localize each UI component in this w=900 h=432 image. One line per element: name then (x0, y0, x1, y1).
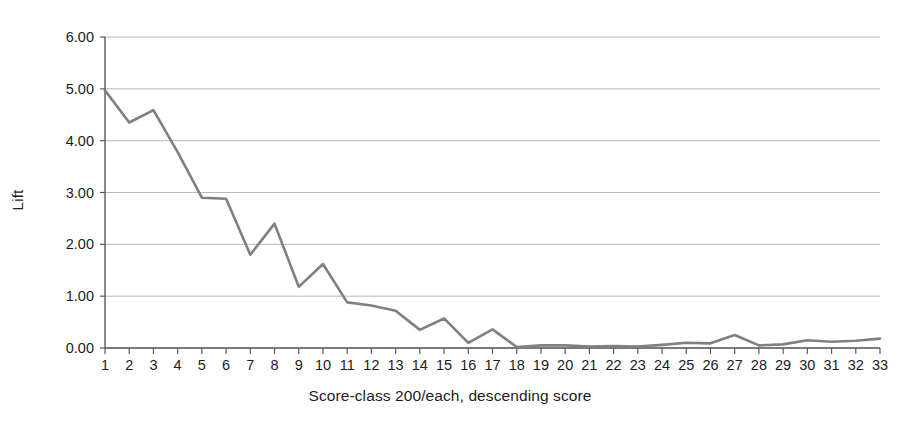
chart-plot-area: 0.001.002.003.004.005.006.00 12345678910… (0, 0, 900, 432)
svg-text:3: 3 (149, 357, 157, 373)
svg-text:2.00: 2.00 (66, 236, 94, 252)
lift-chart: 0.001.002.003.004.005.006.00 12345678910… (0, 0, 900, 432)
svg-text:7: 7 (246, 357, 254, 373)
svg-text:13: 13 (388, 357, 404, 373)
x-tick-marks (105, 348, 880, 354)
svg-text:2: 2 (125, 357, 133, 373)
y-tick-marks (100, 37, 105, 348)
svg-text:28: 28 (751, 357, 767, 373)
svg-text:33: 33 (872, 357, 888, 373)
svg-text:23: 23 (630, 357, 646, 373)
svg-text:32: 32 (848, 357, 864, 373)
svg-text:16: 16 (460, 357, 476, 373)
svg-text:27: 27 (727, 357, 743, 373)
svg-text:29: 29 (775, 357, 791, 373)
svg-text:12: 12 (363, 357, 379, 373)
x-axis-title: Score-class 200/each, descending score (0, 387, 900, 405)
svg-text:4.00: 4.00 (66, 133, 94, 149)
svg-text:30: 30 (799, 357, 815, 373)
svg-text:26: 26 (702, 357, 718, 373)
svg-text:6: 6 (222, 357, 230, 373)
svg-text:8: 8 (270, 357, 278, 373)
svg-text:20: 20 (557, 357, 573, 373)
y-tick-labels: 0.001.002.003.004.005.006.00 (66, 29, 94, 356)
svg-text:21: 21 (581, 357, 597, 373)
svg-text:14: 14 (412, 357, 428, 373)
gridlines (105, 37, 880, 348)
svg-text:25: 25 (678, 357, 694, 373)
svg-text:0.00: 0.00 (66, 340, 94, 356)
svg-text:19: 19 (533, 357, 549, 373)
svg-text:4: 4 (174, 357, 182, 373)
svg-text:31: 31 (823, 357, 839, 373)
svg-text:11: 11 (340, 357, 355, 373)
svg-text:9: 9 (295, 357, 303, 373)
lift-series-line (105, 90, 880, 347)
svg-text:5.00: 5.00 (66, 81, 94, 97)
svg-text:17: 17 (484, 357, 500, 373)
svg-text:10: 10 (315, 357, 331, 373)
svg-text:18: 18 (509, 357, 525, 373)
svg-text:3.00: 3.00 (66, 185, 94, 201)
svg-text:6.00: 6.00 (66, 29, 94, 45)
svg-text:1: 1 (101, 357, 109, 373)
x-tick-labels: 1234567891011121314151617181920212223242… (101, 357, 888, 373)
svg-text:15: 15 (436, 357, 452, 373)
svg-text:1.00: 1.00 (66, 288, 94, 304)
svg-text:24: 24 (654, 357, 670, 373)
svg-text:5: 5 (198, 357, 206, 373)
svg-text:22: 22 (606, 357, 622, 373)
